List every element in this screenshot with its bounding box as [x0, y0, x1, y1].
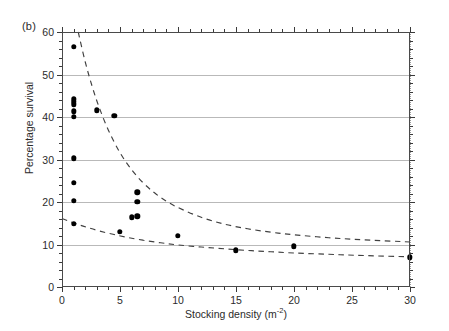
x-tick-25 — [352, 287, 353, 292]
y-tick-label-50: 50 — [42, 69, 54, 81]
x-tick-label-20: 20 — [288, 294, 300, 306]
x-tick-22 — [317, 287, 318, 290]
y-tick-label-40: 40 — [42, 111, 54, 123]
x-axis-title-text: Stocking density (m — [185, 308, 277, 320]
y-tick-right-12 — [410, 236, 413, 237]
x-tick-28 — [387, 287, 388, 290]
x-tick-0 — [62, 287, 63, 292]
x-tick-27 — [375, 287, 376, 290]
x-tick-11 — [190, 287, 191, 290]
y-tick-label-20: 20 — [42, 196, 54, 208]
figure-panel-b: (b) Percentage survival Stocking density… — [0, 0, 449, 331]
y-tick-right-4 — [410, 270, 413, 271]
y-tick-right-30 — [410, 160, 415, 161]
y-tick-right-6 — [410, 262, 413, 263]
panel-label: (b) — [22, 20, 36, 32]
x-tick-label-10: 10 — [172, 294, 184, 306]
x-tick-23 — [329, 287, 330, 290]
y-tick-right-18 — [410, 211, 413, 212]
y-tick-right-14 — [410, 228, 413, 229]
x-tick-5 — [120, 287, 121, 292]
y-tick-right-40 — [410, 117, 415, 118]
x-tick-7 — [143, 287, 144, 290]
y-tick-label-60: 60 — [42, 26, 54, 38]
x-tick-label-5: 5 — [117, 294, 123, 306]
y-tick-right-54 — [410, 58, 413, 59]
x-tick-label-15: 15 — [230, 294, 242, 306]
y-tick-right-50 — [410, 75, 415, 76]
y-tick-right-32 — [410, 151, 413, 152]
y-tick-right-10 — [410, 245, 415, 246]
x-tick-24 — [340, 287, 341, 290]
x-tick-4 — [108, 287, 109, 290]
x-tick-13 — [213, 287, 214, 290]
x-tick-3 — [97, 287, 98, 290]
x-tick-label-25: 25 — [346, 294, 358, 306]
y-tick-right-26 — [410, 177, 413, 178]
x-tick-20 — [294, 287, 295, 292]
y-tick-right-56 — [410, 49, 413, 50]
x-tick-6 — [132, 287, 133, 290]
x-tick-17 — [259, 287, 260, 290]
plot-frame — [62, 32, 410, 287]
x-axis-title-paren: ) — [283, 308, 287, 320]
y-tick-right-38 — [410, 126, 413, 127]
y-tick-right-34 — [410, 143, 413, 144]
x-tick-10 — [178, 287, 179, 292]
y-tick-label-30: 30 — [42, 154, 54, 166]
y-tick-right-28 — [410, 168, 413, 169]
x-tick-15 — [236, 287, 237, 292]
x-tick-18 — [271, 287, 272, 290]
y-tick-right-20 — [410, 202, 415, 203]
y-tick-right-36 — [410, 134, 413, 135]
plot-area: 0102030405060 051015202530 — [62, 32, 410, 287]
y-tick-right-48 — [410, 83, 413, 84]
x-tick-26 — [364, 287, 365, 290]
x-tick-14 — [224, 287, 225, 290]
y-tick-label-10: 10 — [42, 239, 54, 251]
y-axis-title: Percentage survival — [23, 58, 35, 198]
x-tick-21 — [306, 287, 307, 290]
y-tick-right-2 — [410, 279, 413, 280]
x-tick-2 — [85, 287, 86, 290]
y-tick-right-60 — [410, 32, 415, 33]
x-tick-9 — [166, 287, 167, 290]
x-tick-1 — [74, 287, 75, 290]
y-tick-right-42 — [410, 109, 413, 110]
y-tick-right-52 — [410, 66, 413, 67]
x-tick-label-0: 0 — [59, 294, 65, 306]
x-tick-29 — [398, 287, 399, 290]
x-tick-label-30: 30 — [404, 294, 416, 306]
x-tick-19 — [282, 287, 283, 290]
y-tick-right-46 — [410, 92, 413, 93]
x-tick-top-30 — [410, 27, 411, 32]
y-tick-right-24 — [410, 185, 413, 186]
x-tick-8 — [155, 287, 156, 290]
y-tick-right-44 — [410, 100, 413, 101]
y-tick-right-16 — [410, 219, 413, 220]
y-tick-right-58 — [410, 41, 413, 42]
x-tick-16 — [248, 287, 249, 290]
y-tick-label-0: 0 — [48, 281, 54, 293]
x-axis-title: Stocking density (m-2) — [62, 306, 410, 320]
y-tick-right-22 — [410, 194, 413, 195]
x-tick-12 — [201, 287, 202, 290]
x-tick-30 — [410, 287, 411, 292]
